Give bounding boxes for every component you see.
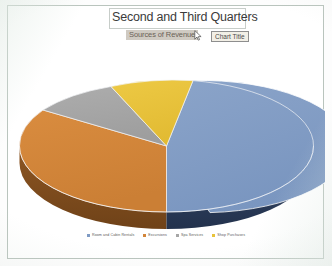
chart-area[interactable]: Second and Third Quarters Sources of Rev… (7, 5, 324, 259)
chart-legend[interactable]: Room and Cabin Rentals Excursions Spa Se… (0, 233, 332, 238)
chart-title[interactable]: Second and Third Quarters (112, 10, 244, 24)
legend-swatch (212, 234, 215, 237)
legend-item[interactable]: Shop Purchases (212, 233, 245, 238)
legend-swatch (87, 234, 90, 237)
legend-label: Room and Cabin Rentals (92, 233, 134, 238)
legend-item[interactable]: Room and Cabin Rentals (87, 233, 134, 238)
legend-item[interactable]: Excursions (143, 233, 167, 238)
legend-label: Excursions (148, 233, 167, 238)
plot-area[interactable] (8, 36, 325, 232)
legend-item[interactable]: Spa Services (176, 233, 203, 238)
legend-label: Shop Purchases (217, 233, 245, 238)
legend-swatch (176, 234, 179, 237)
pie-slice-room-and-cabin-rentals[interactable] (167, 80, 326, 212)
legend-swatch (143, 234, 146, 237)
photographed-page: Second and Third Quarters Sources of Rev… (0, 0, 332, 266)
legend-label: Spa Services (181, 233, 203, 238)
